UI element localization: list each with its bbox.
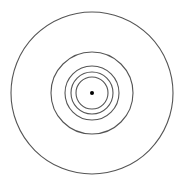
center-dot: [90, 91, 94, 95]
concentric-circles-diagram: [0, 0, 178, 185]
